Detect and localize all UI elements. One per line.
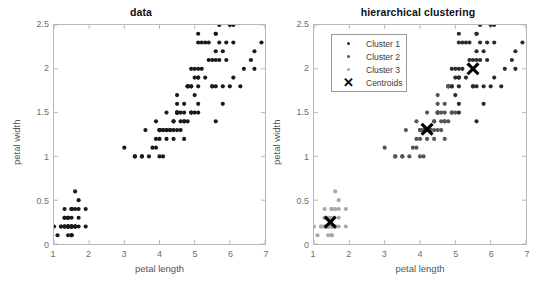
x-tick-label: 7 xyxy=(524,249,529,259)
y-tick-label: 2.5 xyxy=(283,19,309,29)
legend-item-label: Cluster 2 xyxy=(366,52,400,62)
y-tick-label: 0.5 xyxy=(283,196,309,206)
legend[interactable]: Cluster 1Cluster 2Cluster 3✕Centroids xyxy=(331,34,407,92)
page-title-hierarchical: hierarchical clustering xyxy=(275,6,551,18)
x-tick-label: 7 xyxy=(263,249,268,259)
legend-item-label: Cluster 3 xyxy=(366,65,400,75)
legend-dot-icon xyxy=(335,37,361,50)
dot-glyph xyxy=(347,68,350,71)
x-tick-label: 1 xyxy=(310,249,315,259)
x-tick-label: 3 xyxy=(382,249,387,259)
plot-area-hierarchical: Cluster 1Cluster 2Cluster 3✕Centroids xyxy=(313,24,527,245)
x-tick-label: 6 xyxy=(489,249,494,259)
panel-data: data 123456700.511.522.5 petal length pe… xyxy=(0,0,276,286)
scatter-canvas-data xyxy=(54,25,265,244)
legend-item-label: Centroids xyxy=(366,78,402,88)
y-tick-label: 1 xyxy=(23,152,49,162)
legend-item-label: Cluster 1 xyxy=(366,39,400,49)
x-tick-label: 2 xyxy=(86,249,91,259)
y-axis-label-data: petal width xyxy=(11,119,22,164)
x-tick-label: 4 xyxy=(417,249,422,259)
y-tick-label: 2.5 xyxy=(23,19,49,29)
y-tick-label: 0.5 xyxy=(23,196,49,206)
x-axis-label-data: petal length xyxy=(135,263,184,274)
x-glyph: ✕ xyxy=(343,76,354,89)
x-tick-label: 1 xyxy=(50,249,55,259)
y-tick-label: 0 xyxy=(283,240,309,250)
y-tick-label: 1.5 xyxy=(283,107,309,117)
legend-item[interactable]: ✕Centroids xyxy=(335,76,402,89)
x-tick-label: 5 xyxy=(453,249,458,259)
plot-area-data xyxy=(53,24,266,245)
dot-glyph xyxy=(347,55,350,58)
centroid-x-icon: ✕ xyxy=(335,76,361,89)
page-title-data: data xyxy=(0,6,276,18)
x-tick-label: 5 xyxy=(192,249,197,259)
legend-item[interactable]: Cluster 2 xyxy=(335,50,402,63)
x-axis-label-hierarchical: petal length xyxy=(395,263,444,274)
dot-glyph xyxy=(347,42,350,45)
x-tick-label: 6 xyxy=(228,249,233,259)
y-axis-label-hierarchical: petal width xyxy=(271,119,282,164)
y-tick-label: 1 xyxy=(283,152,309,162)
x-tick-label: 3 xyxy=(121,249,126,259)
y-tick-label: 0 xyxy=(23,240,49,250)
y-tick-label: 1.5 xyxy=(23,107,49,117)
panel-hierarchical-clustering: hierarchical clustering Cluster 1Cluster… xyxy=(275,0,551,286)
x-tick-label: 4 xyxy=(157,249,162,259)
y-tick-label: 2 xyxy=(23,63,49,73)
legend-dot-icon xyxy=(335,50,361,63)
figure: data 123456700.511.522.5 petal length pe… xyxy=(0,0,551,286)
y-tick-label: 2 xyxy=(283,63,309,73)
legend-item[interactable]: Cluster 1 xyxy=(335,37,402,50)
x-tick-label: 2 xyxy=(346,249,351,259)
